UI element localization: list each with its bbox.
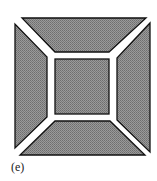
center-square (55, 59, 109, 114)
left-trapezoid (15, 24, 47, 148)
figure-diagram (0, 0, 157, 181)
figure-label: (e) (11, 160, 24, 175)
